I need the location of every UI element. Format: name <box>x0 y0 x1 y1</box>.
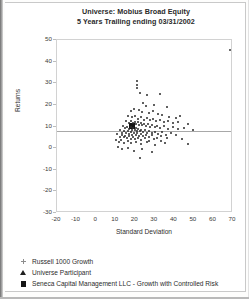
data-point <box>149 119 151 121</box>
data-point <box>164 142 166 144</box>
data-point <box>145 105 147 107</box>
data-point <box>175 134 177 136</box>
data-point <box>163 125 165 127</box>
data-point <box>125 132 127 134</box>
plot-points-layer <box>57 40 231 211</box>
data-point <box>127 140 129 142</box>
y-tick-label: -30 <box>43 209 52 215</box>
data-point <box>135 123 137 125</box>
data-point <box>167 128 169 130</box>
data-point <box>139 157 141 159</box>
data-point <box>145 125 147 127</box>
data-point <box>183 127 185 129</box>
data-point <box>141 111 143 113</box>
data-point <box>135 134 137 136</box>
y-tick-label: -20 <box>43 187 52 193</box>
data-point <box>229 49 231 51</box>
data-point <box>154 126 156 128</box>
data-point <box>146 94 148 96</box>
data-point <box>153 104 155 106</box>
scan-edge-artifact-right <box>248 0 249 299</box>
data-point <box>166 137 168 139</box>
chart-legend: Russell 1000 Growth Universe Participant… <box>19 256 239 289</box>
y-tick-label: 30 <box>45 79 52 85</box>
data-point <box>179 115 181 117</box>
x-tick-label: 30 <box>145 216 163 222</box>
x-tick-label: 0 <box>86 216 104 222</box>
y-tick-label: -10 <box>43 166 52 172</box>
data-point <box>159 119 161 121</box>
y-tick-label: 10 <box>45 123 52 129</box>
data-point <box>172 126 174 128</box>
data-point <box>141 124 143 126</box>
data-point <box>154 144 156 146</box>
data-point <box>160 135 162 137</box>
data-point <box>128 135 130 137</box>
data-point <box>123 136 125 138</box>
data-point <box>166 106 168 108</box>
data-point <box>175 117 177 119</box>
legend-item-universe-participant: Universe Participant <box>19 267 239 278</box>
data-point <box>142 102 144 104</box>
data-point <box>134 138 136 140</box>
x-tick-label: 60 <box>203 216 221 222</box>
triangle-marker-icon <box>19 268 28 277</box>
data-point <box>133 108 135 110</box>
x-tick-label: 70 <box>223 216 241 222</box>
data-point <box>127 147 129 149</box>
data-point <box>142 131 144 133</box>
data-point <box>126 137 128 139</box>
data-point <box>156 125 158 127</box>
data-point <box>137 137 139 139</box>
x-axis-title: Standard Deviation <box>56 228 232 235</box>
legend-item-seneca-capital: Seneca Capital Management LLC - Growth w… <box>19 278 239 289</box>
data-point <box>120 139 122 141</box>
y-tick-label: 20 <box>45 101 52 107</box>
x-tick-label: 50 <box>184 216 202 222</box>
data-point <box>165 134 167 136</box>
data-point <box>161 114 163 116</box>
data-point <box>136 87 138 89</box>
data-point <box>125 120 127 122</box>
x-tick-label: -20 <box>47 216 65 222</box>
data-point <box>123 142 125 144</box>
data-point <box>157 133 159 135</box>
data-point <box>130 131 132 133</box>
legend-item-russell-1000-growth: Russell 1000 Growth <box>19 256 239 267</box>
plot-area <box>56 39 232 212</box>
data-point <box>138 124 140 126</box>
data-point <box>140 139 142 141</box>
y-axis-title: Returns <box>14 89 21 112</box>
data-point <box>148 136 150 138</box>
data-point <box>187 143 189 145</box>
x-axis-ticks: -20-10010203040506070 <box>0 216 249 226</box>
chart-subtitle: 5 Years Trailing ending 03/31/2002 <box>36 17 236 27</box>
data-point <box>116 133 118 135</box>
y-axis-ticks: -30-20-1001020304050 <box>30 0 52 299</box>
data-point <box>140 116 142 118</box>
data-point <box>130 142 132 144</box>
data-point <box>152 118 154 120</box>
data-point <box>152 110 154 112</box>
x-tick-label: -10 <box>67 216 85 222</box>
data-point <box>121 148 123 150</box>
data-point <box>119 136 121 138</box>
data-point <box>145 134 147 136</box>
data-point <box>187 123 189 125</box>
data-point <box>167 120 169 122</box>
data-point <box>136 80 138 82</box>
data-point <box>127 115 129 117</box>
y-tick-label: 50 <box>45 36 52 42</box>
data-point <box>168 116 170 118</box>
data-point <box>159 93 161 95</box>
legend-label: Russell 1000 Growth <box>32 258 93 266</box>
data-point <box>177 121 179 123</box>
data-point <box>139 92 141 94</box>
data-point <box>143 119 145 121</box>
data-point <box>151 124 153 126</box>
data-point <box>119 129 121 131</box>
data-point <box>146 117 148 119</box>
data-point <box>151 134 153 136</box>
data-point <box>163 121 165 123</box>
data-point <box>181 138 183 140</box>
